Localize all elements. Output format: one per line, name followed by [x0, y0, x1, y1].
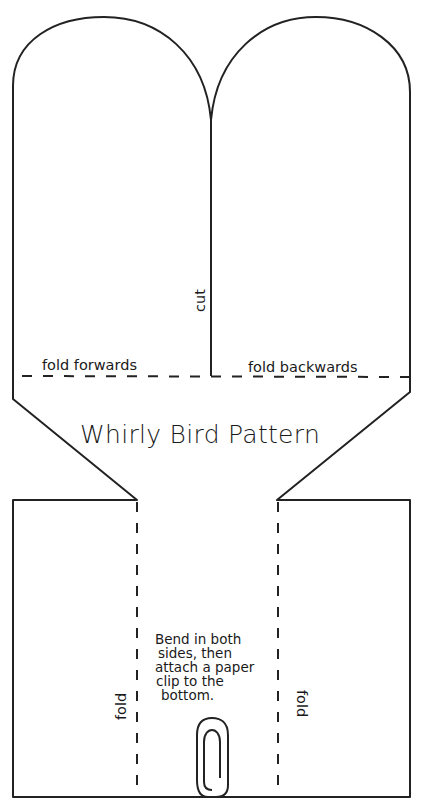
fold-line-horizontal	[22, 376, 410, 377]
fold-left-label: fold	[113, 693, 129, 720]
fold-forwards-label: fold forwards	[42, 357, 137, 373]
instruction-line-5: bottom.	[161, 687, 214, 703]
pattern-title: Whirly Bird Pattern	[80, 420, 320, 449]
fold-backwards-label: fold backwards	[248, 359, 358, 375]
fold-right-label: fold	[294, 690, 310, 717]
cut-label: cut	[192, 289, 208, 312]
whirly-bird-pattern: cut fold forwards fold backwards Whirly …	[0, 0, 424, 808]
paper-clip-icon	[197, 718, 228, 797]
